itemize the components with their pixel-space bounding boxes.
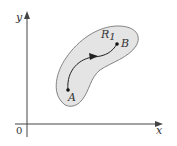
region-label: R1 — [100, 28, 116, 42]
region-label-subscript: 1 — [109, 31, 115, 42]
region-label-main: R — [100, 28, 109, 41]
point-a-label: A — [67, 91, 76, 104]
y-axis-arrow-icon — [24, 11, 30, 19]
origin-label: 0 — [16, 125, 22, 136]
y-axis-label: y — [15, 11, 23, 24]
x-axis-label: x — [156, 124, 163, 137]
diagram-canvas: A B R1 y x 0 — [0, 0, 177, 146]
point-b — [115, 42, 119, 46]
point-b-label: B — [120, 37, 129, 50]
